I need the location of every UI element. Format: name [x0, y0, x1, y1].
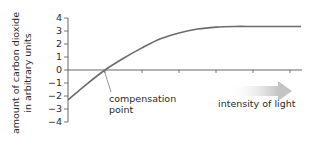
chart-area: 43210−1−2−3−4 — [0, 0, 315, 148]
compensation-pointer — [104, 70, 111, 92]
y-tick-label: −3 — [48, 103, 62, 114]
y-tick-label: 2 — [56, 38, 62, 49]
annotation-line-1: compensation — [109, 93, 176, 104]
y-axis: 43210−1−2−3−4 — [48, 12, 68, 127]
y-tick-label: −2 — [48, 90, 62, 101]
y-tick-label: 3 — [56, 25, 62, 36]
compensation-point-label: compensation point — [109, 93, 176, 115]
y-tick-label: −4 — [48, 116, 62, 127]
x-axis-label: intensity of light — [218, 98, 295, 109]
y-tick-label: 1 — [56, 51, 62, 62]
annotation-line-2: point — [109, 104, 176, 115]
y-tick-label: 0 — [56, 64, 62, 75]
y-tick-label: −1 — [48, 77, 62, 88]
y-tick-label: 4 — [56, 12, 62, 23]
